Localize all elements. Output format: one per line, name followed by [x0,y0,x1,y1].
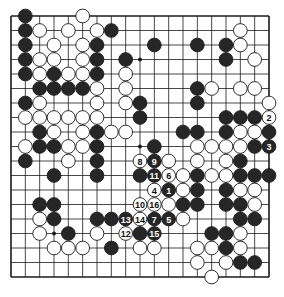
white-stone [233,82,247,96]
black-stone-move-3: 3 [262,140,276,154]
black-stone-icon [219,111,233,125]
white-stone [133,241,147,255]
white-stone-icon [47,38,61,52]
white-stone-icon [61,24,75,38]
white-stone-icon [233,125,247,139]
white-stone-icon [219,140,233,154]
white-stone-icon [90,111,104,125]
white-stone [190,256,204,270]
white-stone [33,212,47,226]
black-stone [133,96,147,110]
white-stone [47,125,61,139]
black-stone-icon [90,38,104,52]
black-stone [18,154,32,168]
white-stone [233,140,247,154]
black-stone-move-13: 13 [119,212,133,226]
black-stone [248,212,262,226]
black-stone [33,140,47,154]
white-stone-move-12: 12 [119,227,133,241]
black-stone-icon [147,140,161,154]
white-stone-move-16: 16 [147,198,161,212]
black-stone [33,198,47,212]
move-number-label: 7 [152,215,157,225]
black-stone-icon [133,227,147,241]
black-stone-icon [233,169,247,183]
stones-layer: 23891164110161314751215 [18,9,275,284]
black-stone-icon [190,198,204,212]
white-stone-icon [219,154,233,168]
white-stone [248,82,262,96]
white-stone-icon [248,198,262,212]
black-stone-icon [47,198,61,212]
black-stone-icon [190,125,204,139]
move-number-label: 12 [121,229,131,239]
black-stone-icon [147,38,161,52]
white-stone [205,82,219,96]
white-stone [233,24,247,38]
white-stone-icon [47,53,61,67]
black-stone [205,227,219,241]
black-stone-icon [47,82,61,96]
black-stone [18,24,32,38]
move-number-label: 10 [135,200,145,210]
white-stone-icon [233,183,247,197]
white-stone [33,67,47,81]
white-stone-icon [248,183,262,197]
white-stone-icon [248,125,262,139]
white-stone-icon [248,82,262,96]
black-stone-icon [104,212,118,226]
black-stone [233,212,247,226]
black-stone [190,169,204,183]
black-stone [47,212,61,226]
black-stone-icon [219,198,233,212]
white-stone-icon [119,82,133,96]
white-stone-icon [147,241,161,255]
white-stone-icon [76,125,90,139]
white-stone [119,82,133,96]
white-stone-icon [190,140,204,154]
white-stone-icon [47,111,61,125]
white-stone-icon [248,53,262,67]
black-stone-icon [219,125,233,139]
white-stone [61,67,75,81]
black-stone [219,125,233,139]
black-stone [90,67,104,81]
black-stone [104,241,118,255]
black-stone [233,154,247,168]
black-stone [190,96,204,110]
white-stone-icon [76,241,90,255]
white-stone [76,241,90,255]
black-stone-icon [18,154,32,168]
black-stone [219,227,233,241]
white-stone-icon [61,154,75,168]
white-stone-icon [205,270,219,284]
black-stone-icon [61,227,75,241]
white-stone [205,140,219,154]
black-stone-icon [233,198,247,212]
black-stone-icon [205,227,219,241]
black-stone-move-1: 1 [162,183,176,197]
black-stone-icon [18,67,32,81]
white-stone-icon [33,96,47,110]
black-stone [90,38,104,52]
white-stone [219,256,233,270]
black-stone [219,241,233,255]
white-stone [262,96,276,110]
white-stone-move-6: 6 [162,169,176,183]
black-stone-move-5: 5 [162,212,176,226]
black-stone [219,183,233,197]
white-stone-icon [119,67,133,81]
white-stone [190,154,204,168]
black-stone [90,125,104,139]
black-stone [133,111,147,125]
white-stone-icon [47,125,61,139]
white-stone-icon [47,241,61,255]
white-stone-icon [76,53,90,67]
white-stone [76,125,90,139]
black-stone-icon [47,140,61,154]
black-stone-icon [104,24,118,38]
black-stone-icon [219,227,233,241]
white-stone-icon [90,96,104,110]
black-stone-icon [18,38,32,52]
white-stone-icon [33,111,47,125]
